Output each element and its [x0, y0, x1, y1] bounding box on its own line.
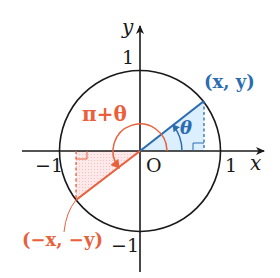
- unit-circle-diagram: y 1 x 1 −1 O −1 θ π+θ (x, y) (−x, −y): [0, 0, 280, 278]
- theta-label: θ: [180, 117, 192, 138]
- point-xy-label: (x, y): [204, 71, 255, 92]
- origin-label: O: [146, 154, 162, 176]
- x-tick-positive: 1: [225, 154, 237, 176]
- y-axis-label: y: [121, 15, 134, 39]
- pi-plus-theta-label: π+θ: [82, 102, 127, 126]
- x-tick-negative: −1: [35, 154, 63, 176]
- point-neg-xy-label: (−x, −y): [22, 229, 103, 250]
- x-axis-label: x: [250, 151, 261, 175]
- point-leader-line: [64, 200, 76, 232]
- y-tick-positive: 1: [122, 46, 134, 68]
- y-tick-negative: −1: [111, 234, 139, 256]
